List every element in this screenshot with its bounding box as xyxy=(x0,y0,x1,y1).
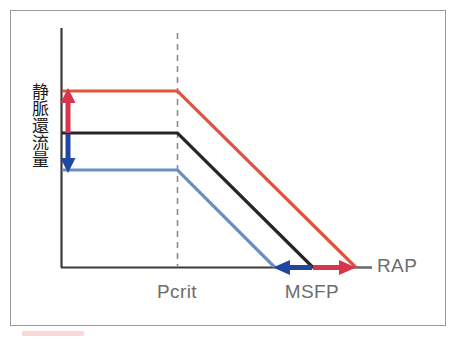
msfp-left-arrow-head xyxy=(273,260,290,275)
x-tick-label-msfp: MSFP xyxy=(285,281,339,303)
series-baseline-line xyxy=(62,133,313,268)
x-tick-label-pcrit: Pcrit xyxy=(157,281,197,303)
series-increased-line xyxy=(62,91,356,268)
series-decreased-line xyxy=(62,170,275,268)
figure-canvas: Pcrit MSFP RAP 静脈還流量 xyxy=(0,0,458,339)
y-axis-label: 静脈還流量 xyxy=(26,62,50,188)
venous-return-chart xyxy=(0,0,458,339)
x-axis-label-rap: RAP xyxy=(377,255,417,277)
msfp-right-arrow-head xyxy=(339,260,356,275)
